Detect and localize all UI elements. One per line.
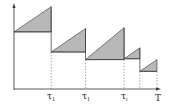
event-label-3-subscript: i (126, 96, 128, 102)
event-label-2-subscript: 1 (87, 96, 90, 102)
x-axis-arrow-icon (156, 88, 161, 91)
segments-group (14, 7, 157, 72)
x-axis-label: T (155, 93, 161, 103)
y-axis-arrow-icon (13, 3, 16, 8)
event-label-3: τ i (121, 91, 128, 102)
event-label-1: τ 1 (47, 91, 55, 102)
sawtooth-diagram: τ 1 τ 1 τ i T (0, 0, 169, 106)
shaded-triangle-3 (86, 28, 125, 60)
shaded-triangle-4 (124, 48, 140, 59)
event-label-1-subscript: 1 (52, 96, 55, 102)
shaded-triangle-5 (140, 60, 157, 72)
shaded-triangle-2 (51, 29, 85, 53)
shaded-triangle-1 (14, 7, 51, 32)
event-label-2: τ 1 (82, 91, 90, 102)
